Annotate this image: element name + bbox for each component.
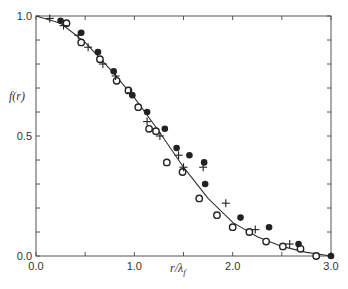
open-circle-marker xyxy=(153,128,159,134)
x-axis-label-subscript: f xyxy=(183,267,187,277)
open-circle-marker xyxy=(214,212,220,218)
filled-circle-marker xyxy=(144,109,151,116)
plus-marker xyxy=(175,151,183,159)
y-tick-label: 0.0 xyxy=(17,250,32,262)
open-circle-marker xyxy=(229,224,235,230)
fit-line xyxy=(36,16,331,256)
y-axis-label: f(r) xyxy=(9,89,25,103)
x-tick-label: 3.0 xyxy=(323,260,338,272)
filled-circle-marker xyxy=(295,241,302,248)
chart: 0.01.02.03.00.00.51.0 f(r) r/λf xyxy=(0,0,348,289)
axis-ticks xyxy=(36,16,331,256)
plot-frame xyxy=(36,16,331,256)
filled-circle-marker xyxy=(202,181,209,188)
filled-circle-marker xyxy=(201,159,208,166)
open-circle-marker xyxy=(164,159,170,165)
filled-circle-marker xyxy=(173,145,180,152)
y-tick-label: 1.0 xyxy=(17,10,32,22)
data-points xyxy=(46,14,335,259)
filled-circle-marker xyxy=(186,152,193,159)
open-circle-marker xyxy=(280,243,286,249)
filled-circle-marker xyxy=(95,49,102,56)
open-circle-marker xyxy=(135,104,141,110)
axis-tick-labels: 0.01.02.03.00.00.51.0 xyxy=(17,10,339,272)
open-circle-marker xyxy=(78,39,84,45)
x-tick-label: 2.0 xyxy=(225,260,240,272)
open-circle-marker xyxy=(97,56,103,62)
open-circle-marker xyxy=(179,169,185,175)
open-circle-marker xyxy=(113,78,119,84)
open-circle-marker xyxy=(146,126,152,132)
filled-circle-marker xyxy=(237,214,244,221)
filled-circle-marker xyxy=(162,126,169,133)
plot-border xyxy=(36,16,331,256)
open-circle-marker xyxy=(313,253,319,259)
y-tick-label: 0.5 xyxy=(17,130,32,142)
plus-marker xyxy=(222,199,230,207)
x-axis-label: r/λf xyxy=(170,261,187,277)
filled-circle-marker xyxy=(57,18,64,25)
open-circle-marker xyxy=(263,238,269,244)
filled-circle-marker xyxy=(266,224,273,231)
plus-marker xyxy=(286,240,294,248)
open-circle-marker xyxy=(196,195,202,201)
plus-marker xyxy=(84,43,92,51)
filled-circle-marker xyxy=(328,253,335,260)
fit-curve xyxy=(36,16,331,256)
x-tick-label: 1.0 xyxy=(127,260,142,272)
